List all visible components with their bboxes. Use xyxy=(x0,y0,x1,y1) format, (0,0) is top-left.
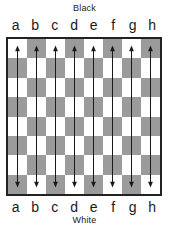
square-h6 xyxy=(141,78,160,97)
square-b2 xyxy=(27,155,46,174)
square-h1 xyxy=(141,175,160,194)
square-d7 xyxy=(65,58,84,77)
square-g7 xyxy=(122,58,141,77)
square-a5 xyxy=(8,97,27,116)
chessboard xyxy=(6,37,162,196)
file-label-bottom-e: e xyxy=(84,199,104,215)
square-a2 xyxy=(8,155,27,174)
file-label-top-a: a xyxy=(6,17,26,33)
square-h7 xyxy=(141,58,160,77)
square-f1 xyxy=(103,175,122,194)
square-f2 xyxy=(103,155,122,174)
square-b6 xyxy=(27,78,46,97)
square-a1 xyxy=(8,175,27,194)
square-g4 xyxy=(122,117,141,136)
square-b3 xyxy=(27,136,46,155)
square-e1 xyxy=(84,175,103,194)
file-label-top-f: f xyxy=(104,17,124,33)
square-g8 xyxy=(122,39,141,58)
chessboard-diagram: Black a b c d e f g h a b c d e f g h Wh… xyxy=(0,0,169,229)
square-b1 xyxy=(27,175,46,194)
square-c4 xyxy=(46,117,65,136)
square-a4 xyxy=(8,117,27,136)
square-e3 xyxy=(84,136,103,155)
square-f6 xyxy=(103,78,122,97)
square-f4 xyxy=(103,117,122,136)
file-label-bottom-f: f xyxy=(104,199,124,215)
square-g5 xyxy=(122,97,141,116)
square-d8 xyxy=(65,39,84,58)
square-c5 xyxy=(46,97,65,116)
square-g1 xyxy=(122,175,141,194)
file-label-bottom-h: h xyxy=(143,199,163,215)
square-b5 xyxy=(27,97,46,116)
square-c8 xyxy=(46,39,65,58)
file-label-top-g: g xyxy=(123,17,143,33)
square-d1 xyxy=(65,175,84,194)
square-h3 xyxy=(141,136,160,155)
square-a3 xyxy=(8,136,27,155)
file-label-bottom-c: c xyxy=(45,199,65,215)
square-f8 xyxy=(103,39,122,58)
square-g6 xyxy=(122,78,141,97)
chessboard-squares xyxy=(8,39,160,194)
square-d5 xyxy=(65,97,84,116)
side-label-white: White xyxy=(0,215,169,226)
square-c6 xyxy=(46,78,65,97)
file-label-top-d: d xyxy=(65,17,85,33)
square-e4 xyxy=(84,117,103,136)
file-label-bottom-d: d xyxy=(65,199,85,215)
square-a6 xyxy=(8,78,27,97)
square-a7 xyxy=(8,58,27,77)
square-a8 xyxy=(8,39,27,58)
square-h8 xyxy=(141,39,160,58)
square-e6 xyxy=(84,78,103,97)
square-f3 xyxy=(103,136,122,155)
square-e2 xyxy=(84,155,103,174)
square-c2 xyxy=(46,155,65,174)
square-e7 xyxy=(84,58,103,77)
file-label-bottom-a: a xyxy=(6,199,26,215)
file-label-top-h: h xyxy=(143,17,163,33)
square-b4 xyxy=(27,117,46,136)
square-g3 xyxy=(122,136,141,155)
file-labels-bottom: a b c d e f g h xyxy=(6,199,162,215)
side-label-black: Black xyxy=(0,3,169,14)
square-d6 xyxy=(65,78,84,97)
square-h2 xyxy=(141,155,160,174)
square-e8 xyxy=(84,39,103,58)
file-label-top-c: c xyxy=(45,17,65,33)
square-c7 xyxy=(46,58,65,77)
square-f7 xyxy=(103,58,122,77)
square-d2 xyxy=(65,155,84,174)
square-b7 xyxy=(27,58,46,77)
file-labels-top: a b c d e f g h xyxy=(6,17,162,33)
square-c1 xyxy=(46,175,65,194)
square-d4 xyxy=(65,117,84,136)
square-f5 xyxy=(103,97,122,116)
square-h5 xyxy=(141,97,160,116)
file-label-bottom-g: g xyxy=(123,199,143,215)
square-b8 xyxy=(27,39,46,58)
square-c3 xyxy=(46,136,65,155)
square-d3 xyxy=(65,136,84,155)
square-h4 xyxy=(141,117,160,136)
square-g2 xyxy=(122,155,141,174)
file-label-top-b: b xyxy=(26,17,46,33)
file-label-top-e: e xyxy=(84,17,104,33)
square-e5 xyxy=(84,97,103,116)
file-label-bottom-b: b xyxy=(26,199,46,215)
